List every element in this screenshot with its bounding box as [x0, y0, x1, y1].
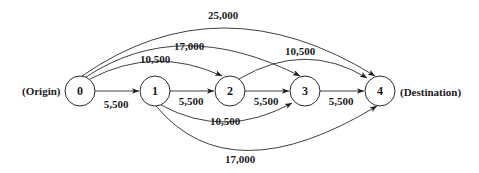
edge-1-2: 5,500	[170, 91, 214, 107]
svg-text:4: 4	[377, 84, 383, 98]
edge-0-3: 17,000	[86, 40, 300, 77]
node-0: 0	[65, 76, 95, 106]
edge-label-2-4: 10,500	[285, 45, 316, 57]
edge-0-1: 5,500	[95, 91, 139, 110]
edge-label-1-3: 10,500	[210, 115, 241, 127]
edge-label-1-2: 5,500	[179, 95, 204, 107]
edge-0-2: 10,500	[90, 53, 222, 79]
edge-label-0-2: 10,500	[140, 53, 171, 65]
network-diagram: 5,500 5,500 5,500 5,500 10,500 17,000 25…	[0, 0, 479, 173]
node-4: 4	[365, 76, 395, 106]
edge-label-1-4: 17,000	[225, 153, 256, 165]
edge-2-4: 10,500	[239, 45, 367, 79]
svg-text:3: 3	[302, 84, 308, 98]
edge-0-4: 25,000	[82, 9, 375, 76]
edge-label-0-4: 25,000	[208, 9, 239, 21]
node-2: 2	[215, 76, 245, 106]
edge-label-2-3: 5,500	[254, 95, 279, 107]
edge-3-4: 5,500	[320, 91, 364, 107]
destination-label: (Destination)	[400, 86, 461, 99]
edge-label-0-3: 17,000	[174, 40, 205, 52]
node-1: 1	[140, 76, 170, 106]
svg-text:1: 1	[152, 84, 158, 98]
node-3: 3	[290, 76, 320, 106]
edge-label-0-1: 5,500	[104, 98, 129, 110]
svg-text:0: 0	[77, 84, 83, 98]
origin-label: (Origin)	[22, 85, 61, 98]
edge-2-3: 5,500	[245, 91, 289, 107]
svg-text:2: 2	[227, 84, 233, 98]
edge-label-3-4: 5,500	[329, 95, 354, 107]
